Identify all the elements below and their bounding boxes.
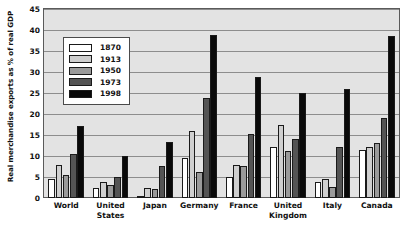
bar-group-germany	[177, 9, 221, 198]
y-axis-tick-15: 15	[2, 131, 40, 140]
bar-japan-1913	[144, 188, 151, 198]
y-axis-tick-20: 20	[2, 110, 40, 119]
bar-united-states-1870	[93, 188, 100, 199]
y-axis-tick-45: 45	[2, 5, 40, 14]
bar-united-kingdom-1998	[299, 93, 306, 198]
bar-united-states-1913	[100, 182, 107, 198]
bar-united-kingdom-1913	[278, 125, 285, 199]
legend-swatch-icon-1973	[69, 78, 92, 86]
x-axis-label-japan: Japan	[133, 201, 177, 211]
bar-france-1950	[240, 166, 247, 198]
y-axis-tick-30: 30	[2, 68, 40, 77]
bar-world-1998	[77, 126, 84, 198]
y-axis-tick-0: 0	[2, 194, 40, 203]
bar-france-1973	[248, 134, 255, 198]
y-axis-tick-5: 5	[2, 173, 40, 182]
bar-italy-1973	[336, 147, 343, 198]
bar-united-kingdom-1870	[270, 147, 277, 198]
bar-germany-1950	[196, 172, 203, 198]
bar-germany-1870	[182, 158, 189, 198]
bar-germany-1913	[189, 131, 196, 198]
bar-italy-1870	[315, 182, 322, 198]
bar-world-1950	[63, 175, 70, 198]
x-axis-label-world: World	[44, 201, 88, 211]
bar-france-1913	[233, 165, 240, 198]
bar-world-1870	[48, 179, 55, 198]
legend: 18701913195019731998	[63, 37, 130, 105]
bar-world-1973	[70, 154, 77, 198]
y-axis-tick-35: 35	[2, 47, 40, 56]
bar-united-states-1950	[107, 185, 114, 198]
y-axis-tick-25: 25	[2, 89, 40, 98]
y-axis-tick-40: 40	[2, 26, 40, 35]
bar-canada-1973	[381, 118, 388, 198]
bar-united-states-1998	[122, 156, 129, 198]
bar-canada-1913	[366, 147, 373, 198]
y-axis-tick-10: 10	[2, 152, 40, 161]
bar-world-1913	[56, 165, 63, 198]
legend-item-1870: 1870	[69, 42, 121, 54]
x-axis-label-italy: Italy	[310, 201, 354, 211]
bar-united-kingdom-1950	[285, 151, 292, 198]
x-axis-label-germany: Germany	[177, 201, 221, 211]
bar-group-france	[222, 9, 266, 198]
bar-japan-1950	[152, 189, 159, 198]
bar-france-1998	[255, 77, 262, 198]
bar-canada-1950	[374, 143, 381, 198]
bar-canada-1998	[388, 36, 395, 198]
legend-label-1950: 1950	[100, 66, 121, 75]
x-axis-label-france: France	[222, 201, 266, 211]
legend-label-1913: 1913	[100, 55, 121, 64]
bar-canada-1870	[359, 150, 366, 198]
legend-label-1870: 1870	[100, 43, 121, 52]
bar-germany-1973	[203, 98, 210, 198]
legend-swatch-icon-1998	[69, 90, 92, 98]
x-axis-label-united-kingdom: UnitedKingdom	[266, 201, 310, 221]
bar-group-united-kingdom	[266, 9, 310, 198]
legend-label-1998: 1998	[100, 89, 121, 98]
bar-italy-1950	[329, 187, 336, 198]
bar-italy-1913	[322, 179, 329, 198]
bar-group-canada	[355, 9, 399, 198]
legend-item-1973: 1973	[69, 77, 121, 89]
bar-united-kingdom-1973	[292, 139, 299, 198]
bar-italy-1998	[344, 89, 351, 198]
x-axis-label-united-states: UnitedStates	[88, 201, 132, 221]
legend-swatch-icon-1950	[69, 67, 92, 75]
x-axis-tick-labels: WorldUnitedStatesJapanGermanyFranceUnite…	[44, 201, 399, 235]
bar-group-japan	[133, 9, 177, 198]
legend-item-1913: 1913	[69, 54, 121, 66]
bar-germany-1998	[210, 35, 217, 198]
legend-item-1998: 1998	[69, 88, 121, 100]
y-axis-tick-labels: 051015202530354045	[0, 8, 40, 198]
legend-item-1950: 1950	[69, 65, 121, 77]
bar-japan-1870	[137, 196, 144, 198]
bar-united-states-1973	[114, 177, 121, 198]
bar-japan-1973	[159, 166, 166, 198]
legend-swatch-icon-1870	[69, 44, 92, 52]
bar-france-1870	[226, 177, 233, 198]
x-axis-label-canada: Canada	[355, 201, 399, 211]
bar-group-italy	[310, 9, 354, 198]
bar-chart: Real merchandise exports as % of real GD…	[0, 0, 410, 237]
legend-swatch-icon-1913	[69, 55, 92, 63]
bar-japan-1998	[166, 142, 173, 198]
legend-label-1973: 1973	[100, 78, 121, 87]
